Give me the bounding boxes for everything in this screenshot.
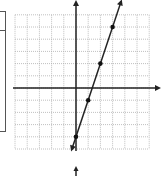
data-point [86,98,91,103]
line-arrow-bottom-icon [70,145,76,152]
coordinate-plane [0,0,162,176]
data-point [98,61,103,66]
partial-next-chart-arrow-icon [74,166,79,176]
x-axis-arrow-icon [155,85,161,91]
plotted-line [70,0,123,152]
data-point [74,135,79,140]
grid-lines [15,15,149,149]
data-point [110,25,115,30]
y-axis-arrow-icon [73,0,79,6]
